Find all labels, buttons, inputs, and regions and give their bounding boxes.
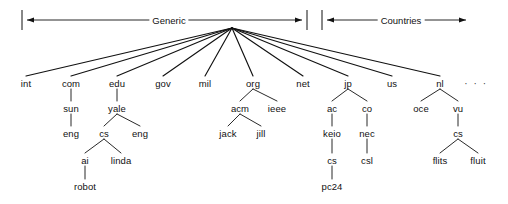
tree-node-ieee: ieee — [268, 103, 286, 114]
tree-node-flits: flits — [433, 155, 448, 166]
tree-node-jill: jill — [257, 128, 266, 139]
span-label-countries: Countries — [378, 15, 425, 26]
edge-yale-to-eng2 — [117, 114, 140, 126]
edge-org-to-acm — [240, 89, 253, 101]
edge-jp-to-ac — [332, 89, 348, 101]
edge-root-to-us — [232, 28, 392, 76]
edge-root-to-int — [26, 28, 232, 76]
edge-org-to-ieee — [253, 89, 277, 101]
tree-node-vu: vu — [453, 103, 463, 114]
tree-node-acm: acm — [231, 103, 249, 114]
tree-node-cs1: cs — [99, 128, 109, 139]
tree-node-us: us — [387, 78, 397, 89]
tree-node-cs3: cs — [453, 128, 463, 139]
tree-node-keio: keio — [323, 128, 341, 139]
dns-tree-figure: GenericCountriesintcomedugovmilorgnetjpu… — [0, 0, 508, 204]
edge-nl-to-vu — [440, 89, 458, 101]
tree-node-mil: mil — [199, 78, 211, 89]
tree-node-jack: jack — [219, 128, 236, 139]
edge-jp-to-co — [348, 89, 367, 101]
tree-node-jp: jp — [344, 78, 352, 89]
span-arrowhead-left-countries — [327, 17, 334, 22]
span-label-generic: Generic — [149, 15, 188, 26]
tree-node-linda: linda — [111, 155, 132, 166]
tree-node-ac: ac — [327, 103, 337, 114]
tree-node-csl: csl — [361, 155, 373, 166]
edge-root-to-nl — [232, 28, 440, 76]
tree-node-sun: sun — [63, 103, 79, 114]
edge-cs3-to-flits — [440, 139, 458, 153]
ellipsis-more-countries: · · · — [464, 78, 488, 89]
tree-node-eng1: eng — [63, 128, 79, 139]
edge-nl-to-oce — [421, 89, 440, 101]
tree-node-cs2: cs — [327, 155, 337, 166]
edge-cs1-to-linda — [104, 139, 121, 153]
tree-edges-layer — [26, 28, 478, 179]
edge-cs3-to-fluit — [458, 139, 478, 153]
tree-node-net: net — [296, 78, 310, 89]
tree-node-gov: gov — [155, 78, 171, 89]
tree-node-oce: oce — [413, 103, 429, 114]
edge-cs1-to-ai — [85, 139, 104, 153]
tree-node-co: co — [362, 103, 372, 114]
edge-yale-to-cs1 — [104, 114, 117, 126]
tree-node-org: org — [246, 78, 260, 89]
edge-root-to-edu — [117, 28, 232, 76]
edge-acm-to-jack — [228, 114, 240, 126]
span-arrowhead-right-generic — [295, 17, 302, 22]
tree-node-fluit: fluit — [470, 155, 485, 166]
tree-node-pc24: pc24 — [321, 181, 342, 192]
tree-node-int: int — [21, 78, 31, 89]
edge-root-to-com — [71, 28, 232, 76]
tree-node-eng2: eng — [132, 128, 148, 139]
tree-node-com: com — [62, 78, 80, 89]
tree-node-robot: robot — [74, 181, 96, 192]
edge-acm-to-jill — [240, 114, 261, 126]
span-arrowhead-left-generic — [27, 17, 34, 22]
tree-node-ai: ai — [81, 155, 89, 166]
span-arrowhead-right-countries — [459, 17, 466, 22]
tree-node-nl: nl — [436, 78, 444, 89]
tree-node-nec: nec — [359, 128, 375, 139]
tree-node-yale: yale — [108, 103, 126, 114]
tree-node-edu: edu — [109, 78, 125, 89]
